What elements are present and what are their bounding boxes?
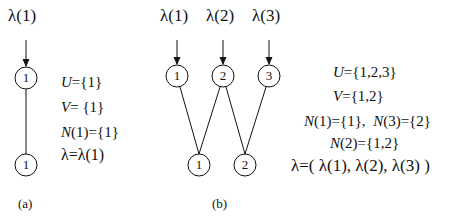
var-u: U [333,64,344,80]
equation-v: V= {1} [61,99,104,116]
input-label-lambda-2: λ(2) [206,6,234,26]
input-label-lambda-1: λ(1) [8,6,36,26]
equation-lambda: λ=λ(1) [61,146,104,164]
edge-3-2 [245,87,266,154]
input-label-lambda-3: λ(3) [252,6,280,26]
value-u: ={1,2,3} [344,64,397,80]
input-label-lambda-1: λ(1) [160,6,188,26]
equation-n1-n3: N(1)={1}, N(3)={2} [304,113,431,130]
var-v: V [333,88,342,104]
value-v: = {1} [70,99,104,115]
top-node-1-label: 1 [167,68,187,84]
value-n2: (2)={1,2} [340,135,399,151]
var-n: N [330,135,340,151]
arrowhead-icon [266,57,273,65]
edge-2-2 [226,87,245,154]
value-v: ={1,2} [342,88,384,104]
bottom-node-label: 1 [16,157,36,173]
equation-lambda: λ=( λ(1), λ(2), λ(3) ) [291,156,430,176]
var-n: N [61,124,71,140]
equation-n2: N(2)={1,2} [330,135,399,152]
var-v: V [61,99,70,115]
edge-1-1 [180,87,199,154]
edge-2-1 [199,87,220,154]
arrowhead-icon [220,57,227,65]
value-u: ={1} [72,74,102,90]
bottom-node-1-label: 1 [189,157,209,173]
value-n: (1)={1} [71,124,119,140]
var-u: U [61,74,72,90]
equation-u: U={1} [61,74,102,91]
caption-b: (b) [212,196,227,212]
arrowhead-icon [174,57,181,65]
equation-n1: N(1)={1} [61,124,119,141]
panel-b-graph [166,40,280,176]
top-node-label: 1 [16,70,36,86]
top-node-2-label: 2 [213,68,233,84]
var-n: N [373,113,383,129]
equation-v: V={1,2} [333,88,384,105]
top-node-3-label: 3 [259,68,279,84]
equation-u: U={1,2,3} [333,64,397,81]
bottom-node-2-label: 2 [235,157,255,173]
panel-a-graph [15,40,37,176]
var-n: N [304,113,314,129]
value-n1: (1)={1}, [314,113,366,129]
arrowhead-icon [23,59,30,67]
value-n3: (3)={2} [383,113,431,129]
caption-a: (a) [18,196,32,212]
